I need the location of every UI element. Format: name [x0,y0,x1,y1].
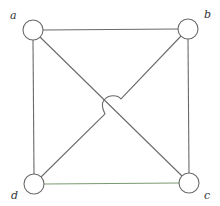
node-a[interactable] [23,20,43,40]
label-c: c [204,189,210,202]
node-b[interactable] [178,19,198,39]
edge-d-a [33,40,34,174]
label-d: d [11,189,18,202]
graph-diagram: a b c d [0,0,220,206]
node-c[interactable] [179,173,199,193]
edge-b-c [188,39,189,173]
label-a: a [10,9,17,22]
edge-a-b [43,29,178,30]
node-d[interactable] [24,174,44,194]
label-b: b [204,8,211,21]
edge-c-d [44,183,179,184]
